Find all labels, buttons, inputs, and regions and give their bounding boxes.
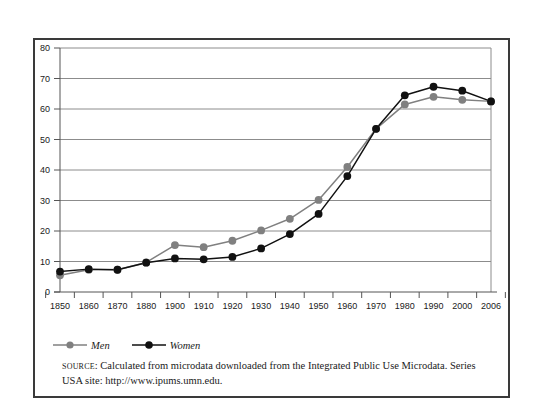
data-point-men <box>200 243 208 251</box>
series-line-men <box>60 97 491 275</box>
data-point-women <box>343 172 351 180</box>
source-line-1: : Calculated from microdata downloaded f… <box>95 360 448 371</box>
data-point-men <box>286 215 294 223</box>
x-tick-label: 1960 <box>337 301 357 311</box>
x-tick-label: 1920 <box>222 301 242 311</box>
y-tick-label: 60 <box>40 104 50 114</box>
data-point-men <box>171 241 179 249</box>
legend-marker-men-icon <box>53 339 87 351</box>
data-point-women <box>257 244 265 252</box>
data-point-women <box>401 91 409 99</box>
series-lines-group <box>60 87 491 275</box>
x-tick-label: 1930 <box>251 301 271 311</box>
data-point-women <box>200 255 208 263</box>
data-point-men <box>343 163 351 171</box>
data-point-women <box>458 87 466 95</box>
x-tick-label: 1970 <box>366 301 386 311</box>
x-tick-label: 1900 <box>165 301 185 311</box>
legend-marker-women-icon <box>132 339 166 351</box>
data-point-women <box>430 83 438 91</box>
data-point-women <box>372 125 380 133</box>
data-point-women <box>315 210 323 218</box>
x-tick-label: 1870 <box>107 301 127 311</box>
chart-legend: Men Women <box>53 330 200 360</box>
data-point-women <box>114 266 122 274</box>
y-tick-label: 40 <box>40 165 50 175</box>
source-note: SOURCE: Calculated from microdata downlo… <box>62 359 482 388</box>
y-axis-tick-labels: 01020304050607080 <box>40 43 50 297</box>
y-axis-tick-marks <box>54 48 60 292</box>
y-tick-label: 70 <box>40 74 50 84</box>
data-point-men <box>257 226 265 234</box>
y-tick-label: 10 <box>40 257 50 267</box>
y-tick-label: 50 <box>40 135 50 145</box>
x-tick-label: 2000 <box>452 301 472 311</box>
legend-item-women: Women <box>132 339 201 351</box>
series-line-women <box>60 87 491 272</box>
data-point-women <box>142 259 150 267</box>
y-tick-label: 30 <box>40 196 50 206</box>
data-point-men <box>458 96 466 104</box>
data-point-women <box>229 253 237 261</box>
line-chart: 01020304050607080 1850186018701880190019… <box>35 40 512 330</box>
x-tick-label: 1950 <box>309 301 329 311</box>
data-point-men <box>229 237 237 245</box>
series-markers-group <box>56 83 495 279</box>
x-axis-tick-marks <box>46 292 506 298</box>
data-point-women <box>171 255 179 263</box>
data-point-men <box>401 101 409 109</box>
x-axis-tick-labels: 1850186018701880190019101920193019401950… <box>50 301 501 311</box>
source-prefix: SOURCE <box>62 362 95 371</box>
x-tick-label: 1940 <box>280 301 300 311</box>
legend-label-men: Men <box>91 340 110 351</box>
x-tick-label: 1990 <box>424 301 444 311</box>
legend-item-men: Men <box>53 339 110 351</box>
data-point-women <box>487 97 495 105</box>
data-point-women <box>56 268 64 276</box>
y-tick-label: 80 <box>40 43 50 53</box>
x-tick-label: 1850 <box>50 301 70 311</box>
figure-frame: 01020304050607080 1850186018701880190019… <box>33 38 510 398</box>
x-tick-label: 1980 <box>395 301 415 311</box>
gridlines-group <box>60 48 491 292</box>
data-point-men <box>430 93 438 101</box>
y-tick-label: 20 <box>40 226 50 236</box>
chart-plot-area: 01020304050607080 1850186018701880190019… <box>35 40 512 330</box>
x-tick-label: 2006 <box>481 301 501 311</box>
legend-label-women: Women <box>170 340 201 351</box>
data-point-men <box>315 196 323 204</box>
x-tick-label: 1910 <box>194 301 214 311</box>
data-point-women <box>85 265 93 273</box>
x-tick-label: 1860 <box>79 301 99 311</box>
x-tick-label: 1880 <box>136 301 156 311</box>
data-point-women <box>286 230 294 238</box>
